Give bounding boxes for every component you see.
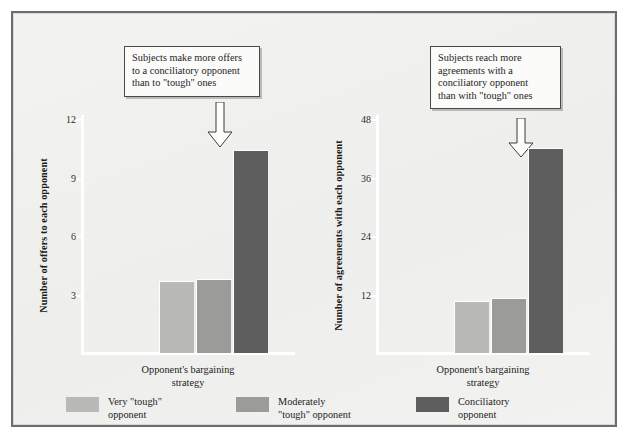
legend-label-very-tough: Very "tough" opponent bbox=[108, 396, 162, 421]
figure-root: Subjects make more offers to a conciliat… bbox=[0, 0, 630, 440]
y-tick-label: 48 bbox=[361, 114, 371, 125]
y-axis-title-offers: Number of offers to each opponent bbox=[35, 115, 51, 355]
panel-agreements: Subjects reach more agreements with a co… bbox=[316, 29, 608, 389]
y-axis-title-agreements-text: Number of agreements with each opponent bbox=[333, 140, 344, 331]
y-tick-label: 6 bbox=[71, 231, 76, 242]
bar bbox=[528, 148, 563, 353]
legend-swatch-moderately-tough bbox=[236, 397, 269, 412]
bar bbox=[196, 279, 231, 353]
legend-swatch-conciliatory bbox=[416, 397, 449, 412]
legend-label-conciliatory: Conciliatory opponent bbox=[458, 396, 509, 421]
legend-item-conciliatory: Conciliatory opponent bbox=[416, 396, 509, 421]
bar bbox=[233, 150, 268, 353]
callout-agreements: Subjects reach more agreements with a co… bbox=[430, 46, 561, 109]
legend-label-moderately-tough: Moderately "tough" opponent bbox=[278, 396, 351, 421]
y-tick-label: 3 bbox=[71, 289, 76, 300]
y-axis-line-agreements bbox=[376, 115, 379, 355]
bar bbox=[491, 298, 526, 353]
plot-area-agreements: 12243648 bbox=[376, 115, 590, 355]
callout-offers: Subjects make more offers to a conciliat… bbox=[124, 46, 260, 97]
x-axis-title-agreements: Opponent's bargaining strategy bbox=[376, 363, 590, 389]
x-axis-title-offers: Opponent's bargaining strategy bbox=[81, 363, 295, 389]
legend: Very "tough" opponent Moderately "tough"… bbox=[21, 396, 611, 432]
y-axis-title-offers-text: Number of offers to each opponent bbox=[38, 158, 49, 313]
figure-frame: Subjects make more offers to a conciliat… bbox=[11, 11, 617, 427]
legend-swatch-very-tough bbox=[66, 397, 99, 412]
y-tick-label: 24 bbox=[361, 231, 371, 242]
bar bbox=[159, 281, 194, 353]
y-tick-label: 9 bbox=[71, 172, 76, 183]
plot-area-offers: 36912 bbox=[81, 115, 295, 355]
bar bbox=[454, 301, 489, 353]
y-tick-label: 12 bbox=[361, 289, 371, 300]
panel-offers: Subjects make more offers to a conciliat… bbox=[21, 29, 313, 389]
y-axis-title-agreements: Number of agreements with each opponent bbox=[330, 115, 346, 355]
y-axis-line-offers bbox=[81, 115, 84, 355]
legend-item-very-tough: Very "tough" opponent bbox=[66, 396, 162, 421]
legend-item-moderately-tough: Moderately "tough" opponent bbox=[236, 396, 351, 421]
y-tick-label: 12 bbox=[66, 114, 76, 125]
y-tick-label: 36 bbox=[361, 172, 371, 183]
